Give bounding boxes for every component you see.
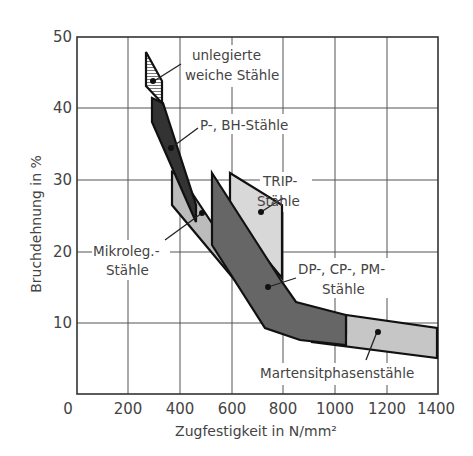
label-unlegierte-2: weiche Stähle: [185, 67, 279, 83]
y-tick-labels: 50 40 30 20 10: [53, 28, 72, 332]
label-unlegierte-1: unlegierte: [192, 47, 261, 63]
svg-text:Stähle: Stähle: [106, 262, 149, 278]
svg-text:TRIP-: TRIP-: [262, 173, 297, 189]
svg-text:unlegierte: unlegierte: [192, 47, 261, 63]
svg-text:P-, BH-Stähle: P-, BH-Stähle: [200, 117, 288, 133]
x-axis-label: Zugfestigkeit in N/mm²: [175, 423, 337, 439]
y-tick-20: 20: [53, 243, 72, 261]
svg-text:Martensitphasenstähle: Martensitphasenstähle: [260, 365, 414, 381]
y-tick-40: 40: [53, 99, 72, 117]
svg-text:Stähle: Stähle: [322, 281, 365, 297]
x-tick-1400: 1400: [417, 400, 455, 418]
chart: unlegierte weiche Stähle P-, BH-Stähle T…: [0, 0, 473, 456]
svg-text:weiche Stähle: weiche Stähle: [185, 67, 279, 83]
x-tick-1200: 1200: [368, 400, 406, 418]
label-dp-1: DP-, CP-, PM-: [298, 261, 385, 277]
svg-text:DP-, CP-, PM-: DP-, CP-, PM-: [298, 261, 385, 277]
label-mikroleg-1: Mikroleg.-: [93, 243, 160, 259]
x-tick-800: 800: [269, 400, 298, 418]
label-trip-1: TRIP-: [262, 173, 297, 189]
label-mikroleg-2: Stähle: [106, 262, 149, 278]
y-axis-label: Bruchdehnung in %: [28, 155, 44, 293]
y-tick-10: 10: [53, 314, 72, 332]
y-tick-30: 30: [53, 171, 72, 189]
svg-text:Stähle: Stähle: [257, 193, 300, 209]
label-p-bh: P-, BH-Stähle: [200, 117, 288, 133]
svg-text:Mikroleg.-: Mikroleg.-: [93, 243, 160, 259]
x-tick-1000: 1000: [316, 400, 354, 418]
x-tick-200: 200: [114, 400, 143, 418]
label-dp-2: Stähle: [322, 281, 365, 297]
label-trip-2: Stähle: [257, 193, 300, 209]
x-tick-labels: 0 200 400 600 800 1000 1200 1400: [63, 400, 455, 418]
x-tick-400: 400: [166, 400, 195, 418]
x-tick-0: 0: [63, 400, 73, 418]
x-tick-600: 600: [218, 400, 247, 418]
label-martensit: Martensitphasenstähle: [260, 365, 414, 381]
y-tick-50: 50: [53, 28, 72, 46]
